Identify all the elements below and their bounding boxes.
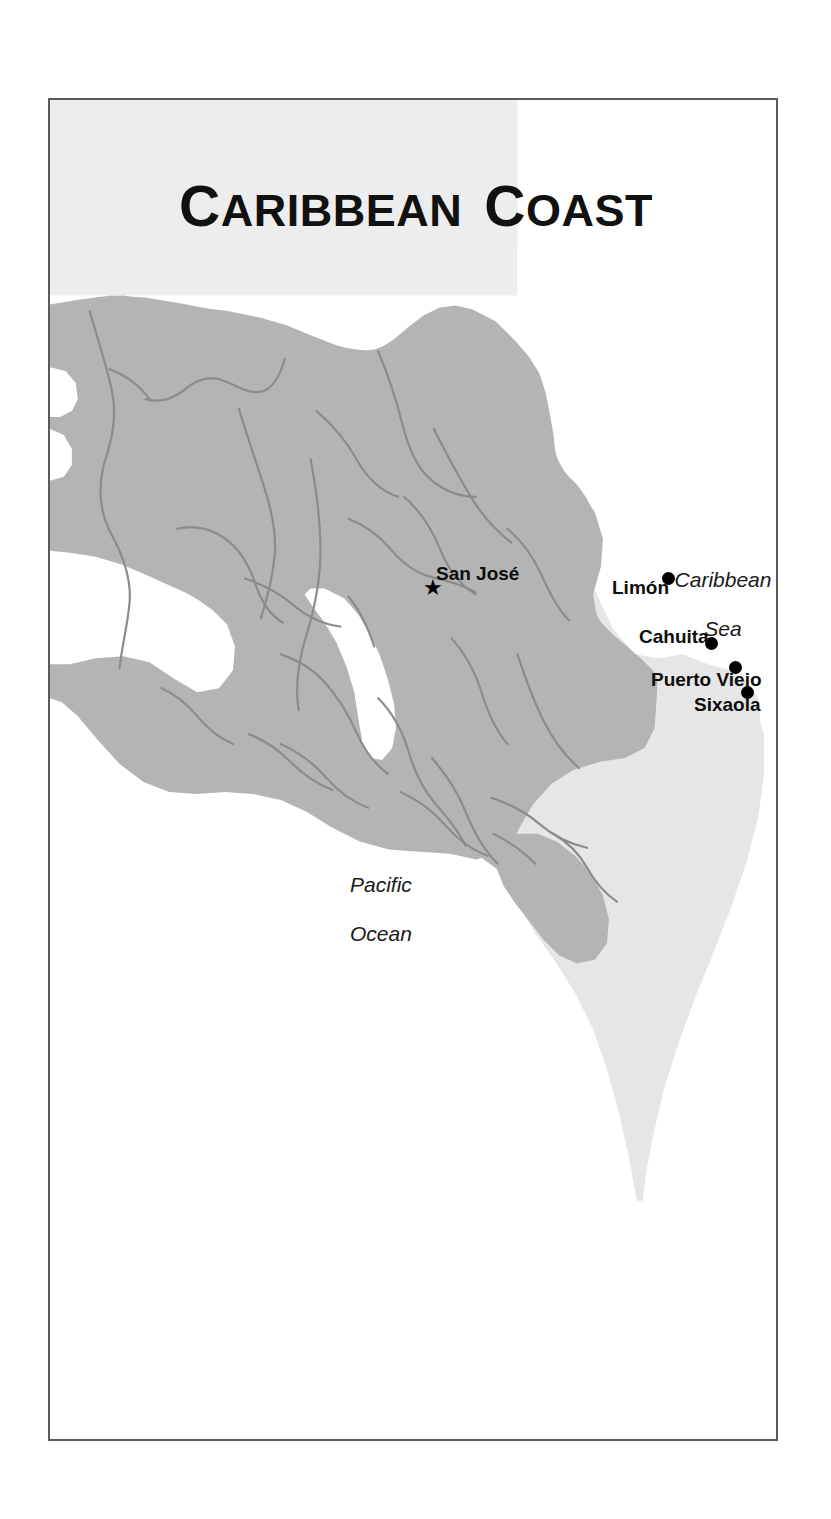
city-label-san-jose: San José [436, 564, 519, 583]
water-label-line1: Caribbean [675, 568, 772, 591]
water-label-line2: Ocean [350, 922, 412, 945]
city-label-limon: Limón [612, 578, 669, 597]
water-label-pacific-ocean: Pacific Ocean [350, 848, 500, 947]
water-label-line1: Pacific [350, 873, 412, 896]
map-figure: CARIBBEANCOAST Caribbean Sea Pacific Oce… [48, 98, 778, 1441]
city-label-sixaola: Sixaola [694, 695, 761, 714]
map-graphic [50, 100, 776, 1439]
city-label-cahuita: Cahuita [639, 627, 709, 646]
title-word2-rest: OAST [526, 185, 653, 236]
title-word1-cap: C [179, 174, 221, 238]
title-word1-rest: ARIBBEAN [221, 185, 463, 236]
page-title: CARIBBEANCOAST [50, 178, 776, 235]
title-word2-cap: C [484, 174, 526, 238]
